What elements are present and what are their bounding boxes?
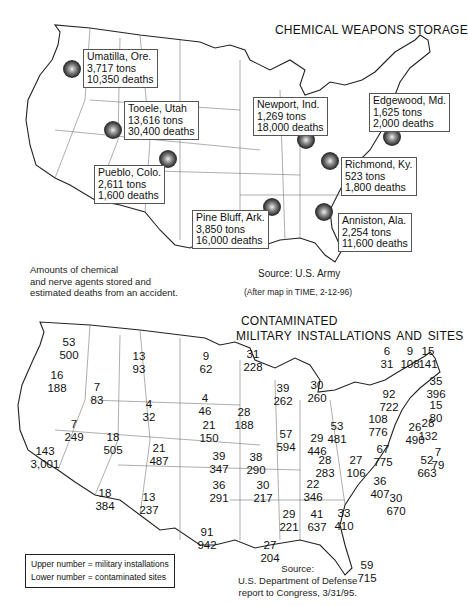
installations-count: 9 — [200, 350, 213, 363]
contaminated-sites-count: 3,001 — [31, 458, 60, 471]
state-value-ks: 39347 — [209, 450, 228, 475]
site-deaths: 30,400 deaths — [128, 126, 195, 138]
contaminated-sites-count: 670 — [386, 505, 405, 518]
state-value-mt: 1393 — [133, 350, 146, 375]
map2-title-line2: MILITARY INSTALLATIONS AND SITES — [236, 329, 463, 343]
state-value-wy: 432 — [143, 398, 156, 423]
site-marker-anniston — [315, 203, 333, 221]
site-name: Newport, Ind. — [257, 99, 324, 111]
installations-count: 7 — [64, 418, 83, 431]
installations-count: 13 — [139, 491, 158, 504]
contaminated-sites-count: 221 — [279, 521, 298, 534]
contaminated-sites-count: 32 — [143, 411, 156, 424]
installations-count: 33 — [334, 507, 353, 520]
installations-count: 27 — [260, 539, 279, 552]
contaminated-sites-count: 141 — [418, 358, 437, 371]
contaminated-sites-count: 663 — [417, 467, 436, 480]
contaminated-sites-count: 62 — [200, 363, 213, 376]
site-deaths: 11,600 deaths — [342, 238, 408, 250]
installations-count: 35 — [426, 375, 445, 388]
installations-count: 38 — [246, 451, 265, 464]
site-marker-richmond — [321, 152, 339, 170]
state-value-oh: 53481 — [327, 420, 346, 445]
state-value-al: 41637 — [307, 508, 326, 533]
installations-count: 21 — [199, 419, 218, 432]
contaminated-sites-count: 31 — [381, 358, 394, 371]
installations-count: 36 — [209, 479, 228, 492]
installations-count: 28 — [234, 406, 253, 419]
site-name: Umatilla, Ore. — [87, 51, 154, 63]
installations-count: 30 — [253, 479, 272, 492]
contaminated-sites-count: 93 — [133, 363, 146, 376]
installations-count: 4 — [143, 398, 156, 411]
legend-upper: Upper number = military installations — [31, 558, 169, 571]
state-value-ca: 1433,001 — [31, 445, 60, 470]
map1-source: Source: U.S. Army — [258, 268, 340, 280]
contaminated-sites-count: 249 — [64, 431, 83, 444]
state-value-ut: 18505 — [103, 431, 122, 456]
state-value-nj: 26490 — [405, 421, 424, 446]
callout-pueblo: Pueblo, Colo. 2,611 tons 1,600 deaths — [94, 165, 165, 204]
installations-count: 52 — [417, 454, 436, 467]
contaminated-sites-count: 260 — [307, 392, 326, 405]
callout-newport: Newport, Ind. 1,269 tons 18,000 deaths — [253, 97, 328, 136]
state-value-fl: 59715 — [357, 559, 376, 584]
state-value-wi: 39262 — [273, 382, 292, 407]
state-value-ia: 28188 — [234, 406, 253, 431]
state-value-me: 15141 — [418, 345, 437, 370]
state-value-wv: 27106 — [346, 454, 365, 479]
installations-count: 29 — [279, 508, 298, 521]
state-value-mi: 30260 — [307, 379, 326, 404]
state-value-ny: 92722 — [379, 388, 398, 413]
map1-title: CHEMICAL WEAPONS STORAGE — [275, 23, 468, 37]
site-name: Edgewood, Md. — [373, 95, 446, 107]
contaminated-sites-count: 291 — [209, 492, 228, 505]
installations-count: 26 — [405, 421, 424, 434]
contaminated-sites-count: 262 — [273, 395, 292, 408]
contaminated-sites-count: 217 — [253, 492, 272, 505]
installations-count: 6 — [381, 345, 394, 358]
site-name: Pueblo, Colo. — [98, 167, 161, 179]
map2-title-line1: CONTAMINATED — [241, 314, 338, 328]
contaminated-sites-count: 481 — [327, 433, 346, 446]
installations-count: 13 — [133, 350, 146, 363]
site-name: Richmond, Ky. — [345, 159, 413, 171]
state-value-nd: 962 — [200, 350, 213, 375]
state-value-ga: 33410 — [334, 507, 353, 532]
installations-count: 4 — [199, 392, 212, 405]
state-value-id: 783 — [91, 381, 104, 406]
installations-count: 15 — [430, 399, 443, 412]
installations-count: 9 — [400, 345, 419, 358]
installations-count: 53 — [327, 420, 346, 433]
state-value-or: 16188 — [47, 369, 66, 394]
site-name: Anniston, Ala. — [342, 215, 408, 227]
callout-tooele: Tooele, Utah 13,616 tons 30,400 deaths — [124, 101, 199, 140]
callout-edgewood: Edgewood, Md. 1,625 tons 2,000 deaths — [369, 93, 450, 132]
state-value-nh: 9108 — [400, 345, 419, 370]
installations-count: 7 — [91, 381, 104, 394]
installations-count: 91 — [197, 526, 216, 539]
site-name: Pine Bluff, Ark. — [196, 212, 265, 224]
contaminated-sites-count: 722 — [379, 401, 398, 414]
map2-source: Source: U.S. Department of Defense repor… — [238, 563, 357, 599]
contaminated-sites-count: 505 — [103, 444, 122, 457]
state-value-tn: 22346 — [303, 478, 322, 503]
installations-count: 108 — [368, 413, 387, 426]
state-value-va: 67775 — [373, 443, 392, 468]
site-deaths: 10,350 deaths — [87, 74, 154, 86]
map2-legend: Upper number = military installations Lo… — [25, 554, 175, 588]
contaminated-sites-count: 715 — [357, 572, 376, 585]
site-deaths: 2,000 deaths — [373, 118, 446, 130]
contaminated-sites-count: 188 — [47, 382, 66, 395]
installations-count: 27 — [346, 454, 365, 467]
contaminated-sites-count: 106 — [346, 467, 365, 480]
site-marker-tooele — [104, 121, 122, 139]
contaminated-sites-count: 594 — [276, 441, 295, 454]
callout-pine-bluff: Pine Bluff, Ark. 3,850 tons 16,000 death… — [192, 210, 269, 249]
state-value-sc: 30670 — [386, 492, 405, 517]
state-value-tx: 91942 — [197, 526, 216, 551]
installations-count: 143 — [31, 445, 60, 458]
contaminated-sites-count: 776 — [368, 426, 387, 439]
state-value-ne: 21150 — [199, 419, 218, 444]
state-value-ky: 28283 — [315, 454, 334, 479]
